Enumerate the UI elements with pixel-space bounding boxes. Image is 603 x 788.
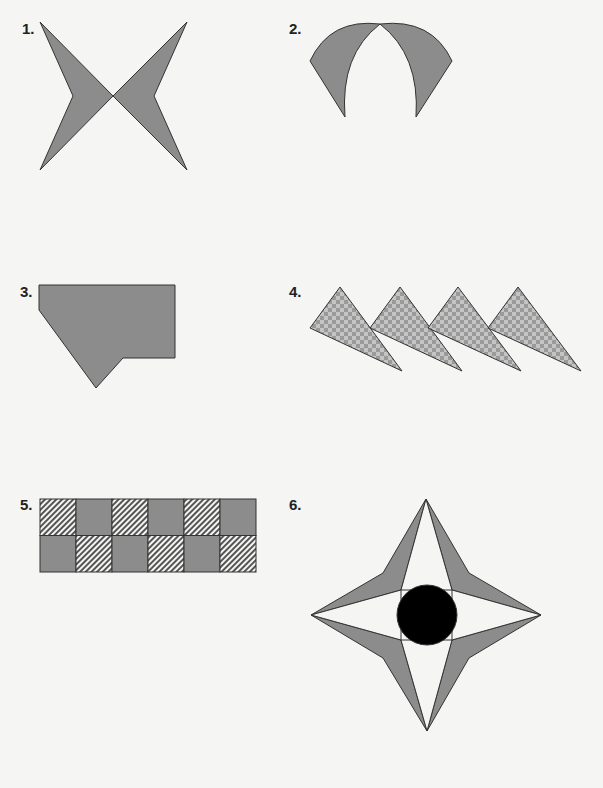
- center-circle: [397, 585, 457, 645]
- figure-3-shape: [39, 285, 175, 388]
- figure-4-shape: [310, 287, 581, 371]
- figure-5-shape: [40, 499, 256, 572]
- figure-1-shape: [40, 22, 187, 170]
- figures-canvas: [0, 0, 603, 788]
- figure-2-shape: [310, 23, 452, 117]
- figure-6-shape: [311, 499, 541, 731]
